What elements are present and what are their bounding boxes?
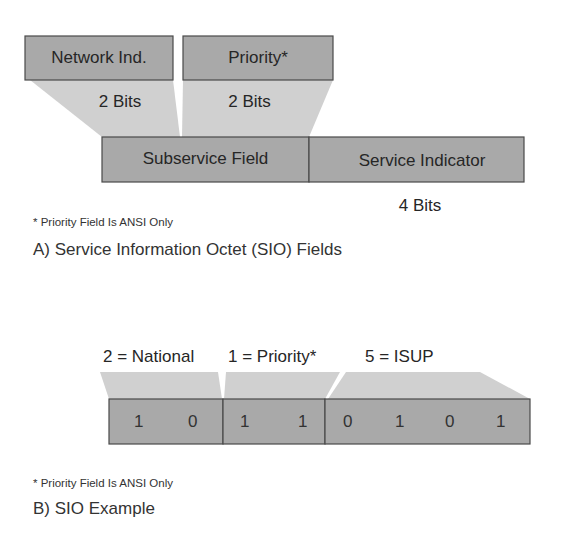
network-ind-label: Network Ind.	[25, 49, 173, 66]
priority-label: Priority*	[183, 49, 333, 66]
national-wedge	[100, 372, 222, 399]
bit-1: 1	[134, 413, 143, 430]
bit-2: 0	[188, 413, 197, 430]
network-ind-bits: 2 Bits	[85, 93, 155, 110]
subservice-field-label: Subservice Field	[102, 150, 309, 167]
bit-6: 1	[395, 413, 404, 430]
isup-wedge	[328, 372, 530, 399]
service-indicator-label: Service Indicator	[320, 152, 524, 169]
bit-8: 1	[496, 413, 505, 430]
section-b-caption: B) SIO Example	[33, 500, 155, 517]
isup-label: 5 = ISUP	[365, 348, 434, 365]
service-indicator-bits: 4 Bits	[380, 197, 460, 214]
bit-7: 0	[445, 413, 454, 430]
section-a-footnote: * Priority Field Is ANSI Only	[33, 217, 173, 229]
section-a-caption: A) Service Information Octet (SIO) Field…	[33, 241, 342, 258]
bit-4: 1	[298, 413, 307, 430]
section-b-footnote: * Priority Field Is ANSI Only	[33, 478, 173, 490]
priority-example-wedge	[224, 372, 340, 399]
bit-5: 0	[343, 413, 352, 430]
diagram-shapes	[0, 0, 562, 540]
priority-example-label: 1 = Priority*	[228, 348, 316, 365]
priority-bits-box	[223, 399, 325, 444]
bit-3: 1	[240, 413, 249, 430]
national-label: 2 = National	[103, 348, 194, 365]
national-bits-box	[109, 399, 223, 444]
priority-bits: 2 Bits	[212, 93, 287, 110]
